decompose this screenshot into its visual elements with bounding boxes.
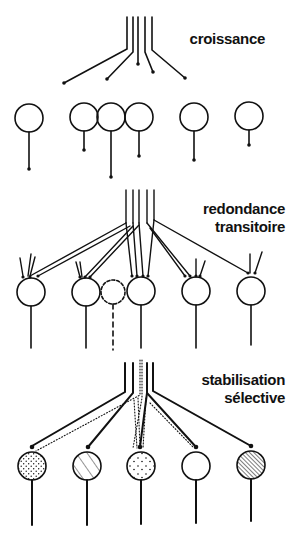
panel-stabilization	[18, 360, 265, 525]
panel-growth	[15, 17, 263, 179]
panel-redundancy	[17, 190, 265, 350]
diagram: croissance redondance transitoire stabil…	[0, 0, 305, 536]
diagram-svg	[0, 0, 305, 536]
